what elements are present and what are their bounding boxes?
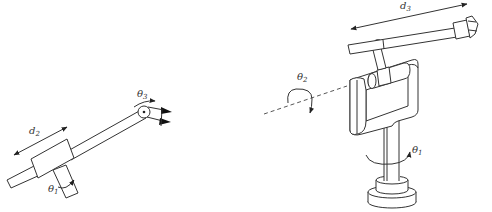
wrist-axis-dot xyxy=(143,111,146,114)
prismatic-arm xyxy=(66,110,146,160)
left-manipulator: θ1 d2 θ3 xyxy=(7,88,172,198)
theta1-label-right: θ1 xyxy=(412,144,423,157)
theta3-label: θ3 xyxy=(137,88,148,101)
gripper-tip-top xyxy=(161,107,172,114)
theta2-label: θ2 xyxy=(297,71,308,84)
theta2-rotation-arrow xyxy=(288,89,312,113)
right-manipulator: θ1 d3 θ2 xyxy=(264,0,478,208)
d2-label: d2 xyxy=(29,125,40,138)
theta1-label: θ1 xyxy=(48,183,59,196)
shoulder-cylinder-end xyxy=(368,74,376,89)
telescoping-arm xyxy=(348,28,457,54)
robot-manipulators-diagram: θ1 d2 θ3 θ1 xyxy=(0,0,492,212)
yoke-left-upright xyxy=(350,78,366,135)
d3-label: d3 xyxy=(400,0,411,13)
